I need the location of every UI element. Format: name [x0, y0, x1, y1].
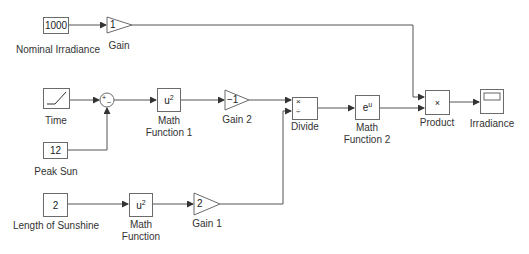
constant-value: 2 [53, 200, 59, 211]
sum-plus-sign: + [102, 94, 106, 101]
gain-label: Gain [104, 40, 134, 52]
divide-divide-port: ÷ [296, 107, 300, 116]
length-of-sunshine-label: Length of Sunshine [6, 220, 106, 232]
math-function-2-block[interactable]: eu [355, 95, 380, 120]
constant-value: 12 [50, 145, 61, 156]
gain-1-value: 2 [197, 198, 203, 209]
divide-label: Divide [285, 121, 325, 133]
gain-1-label: Gain 1 [187, 218, 227, 230]
math-expr: u2 [136, 199, 145, 211]
gain-2-label: Gain 2 [217, 114, 257, 126]
math-function-label: Math Function [111, 219, 171, 243]
gain-2-value: −1 [227, 94, 238, 105]
peak-sun-label: Peak Sun [26, 166, 86, 178]
product-label: Product [412, 117, 462, 129]
time-label: Time [36, 115, 76, 127]
math-expr: eu [363, 101, 372, 113]
sum-minus-sign: – [107, 98, 111, 105]
math-function-2-label: Math Function 2 [337, 122, 397, 146]
peak-sun-block[interactable]: 12 [43, 142, 68, 159]
nominal-irradiance-label: Nominal Irradiance [8, 44, 108, 56]
constant-value: 1000 [45, 20, 67, 31]
gain-value: 1 [110, 19, 116, 30]
math-function-block[interactable]: u2 [129, 193, 153, 217]
simulink-canvas: 1000 Nominal Irradiance 1 Gain Time + – … [0, 0, 529, 254]
product-block[interactable]: × [425, 90, 450, 115]
math-function-1-block[interactable]: u2 [157, 88, 181, 112]
irradiance-scope-block[interactable] [480, 89, 504, 114]
length-of-sunshine-block[interactable]: 2 [43, 193, 68, 217]
irradiance-label: Irradiance [467, 118, 517, 130]
wire-gain-to-product [132, 25, 424, 97]
math-function-1-label: Math Function 1 [139, 115, 199, 139]
divide-multiply-port: × [296, 97, 301, 106]
math-expr: u2 [164, 94, 173, 106]
time-block[interactable] [43, 88, 70, 109]
product-symbol: × [435, 98, 440, 108]
nominal-irradiance-block[interactable]: 1000 [43, 17, 69, 34]
